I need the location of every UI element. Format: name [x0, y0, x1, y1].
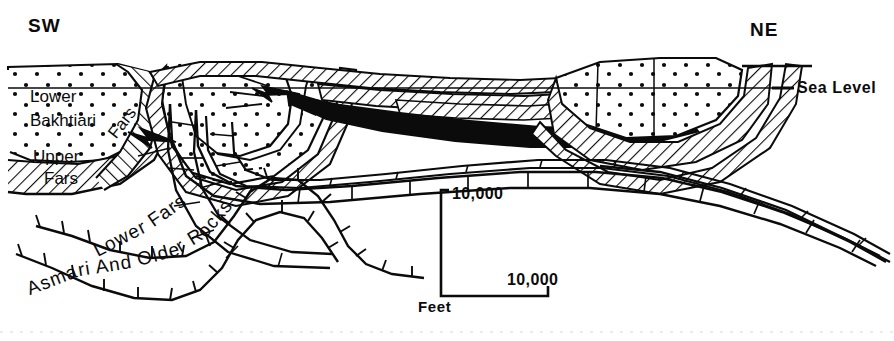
unit-label-bakhtiari: Bakhtiari [30, 112, 96, 129]
geologic-cross-section-figure: Lower Fars Asmari And Older Rocks SW NE … [0, 0, 894, 341]
cross-section-drawing: Lower Fars Asmari And Older Rocks [0, 0, 894, 341]
scale-bar-horizontal-value: 10,000 [507, 272, 558, 288]
sea-level-label: Sea Level [797, 80, 876, 96]
unit-label-fars-lower: Fars [44, 170, 78, 187]
orientation-label-sw: SW [28, 16, 61, 35]
scale-bar-vertical-value: 10,000 [452, 186, 503, 202]
unit-label-upper: Upper [33, 148, 79, 165]
orientation-label-ne: NE [750, 20, 778, 39]
unit-label-lower: Lower [30, 88, 76, 105]
scale-bar-units-label: Feet [418, 299, 451, 314]
